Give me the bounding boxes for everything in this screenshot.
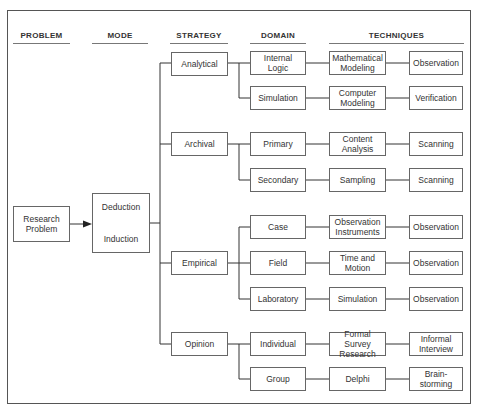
mode-induction: Induction — [104, 234, 139, 244]
technique-informal-interview: Informal Interview — [409, 332, 463, 356]
connector-lines — [0, 0, 479, 413]
domain-laboratory: Laboratory — [250, 287, 306, 311]
technique-observation: Observation — [409, 287, 463, 311]
technique-brainstorming: Brain- storming — [409, 367, 463, 391]
arrow-head-icon — [83, 221, 92, 228]
domain-individual: Individual — [250, 332, 306, 356]
domain-group: Group — [250, 367, 306, 391]
mode-deduction: Deduction — [102, 202, 140, 212]
technique-observation: Observation — [409, 251, 463, 275]
technique-content-analysis: Content Analysis — [329, 132, 386, 156]
domain-simulation: Simulation — [250, 86, 306, 110]
technique-time-and-motion: Time and Motion — [329, 251, 386, 275]
domain-secondary: Secondary — [250, 168, 306, 192]
technique-observation-instruments: Observation Instruments — [329, 215, 386, 239]
technique-sampling: Sampling — [329, 168, 386, 192]
strategy-opinion: Opinion — [171, 332, 228, 356]
technique-mathematical-modeling: Mathematical Modeling — [329, 51, 386, 75]
strategy-analytical: Analytical — [171, 52, 228, 76]
technique-scanning: Scanning — [409, 168, 463, 192]
technique-observation: Observation — [409, 51, 463, 75]
technique-simulation: Simulation — [329, 287, 386, 311]
strategy-archival: Archival — [171, 132, 228, 156]
domain-case: Case — [250, 215, 306, 239]
technique-observation: Observation — [409, 215, 463, 239]
domain-internal-logic: Internal Logic — [250, 51, 306, 75]
technique-scanning: Scanning — [409, 132, 463, 156]
research-problem-box: Research Problem — [13, 206, 70, 242]
technique-verification: Verification — [409, 86, 463, 110]
technique-delphi: Delphi — [329, 367, 386, 391]
technique-computer-modeling: Computer Modeling — [329, 86, 386, 110]
domain-field: Field — [250, 251, 306, 275]
mode-box: Deduction Induction — [92, 193, 150, 253]
strategy-empirical: Empirical — [171, 251, 228, 275]
technique-formal-survey-research: Formal Survey Research — [329, 332, 386, 356]
domain-primary: Primary — [250, 132, 306, 156]
